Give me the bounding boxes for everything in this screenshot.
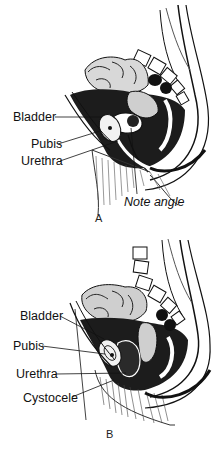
label-urethra-b: Urethra — [16, 367, 58, 381]
figure-b-cystocele: Bladder Pubis Urethra Cystocele B — [0, 225, 222, 451]
figure-a-normal-anatomy: Bladder Pubis Urethra Note angle A — [0, 0, 222, 225]
label-pubis-a: Pubis — [31, 137, 62, 151]
pelvis-illustration-b — [0, 225, 222, 451]
figure-caption-a: A — [95, 212, 102, 224]
label-bladder-b: Bladder — [20, 309, 63, 323]
label-bladder-a: Bladder — [13, 110, 56, 124]
label-urethra-a: Urethra — [21, 154, 63, 168]
figure-caption-b: B — [106, 428, 113, 440]
label-pubis-b: Pubis — [13, 339, 44, 353]
label-note-angle: Note angle — [124, 195, 184, 209]
label-cystocele: Cystocele — [23, 391, 78, 405]
